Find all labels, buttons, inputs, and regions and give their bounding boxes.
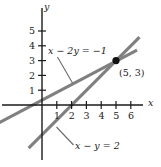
x-tick-label-4: 4 bbox=[98, 111, 104, 121]
y-tick-label-4: 4 bbox=[29, 41, 35, 51]
graph-figure: y x 1 2 3 4 5 1 2 3 4 5 6 x − 2y = −1 x … bbox=[0, 0, 161, 167]
y-axis-label: y bbox=[44, 2, 49, 12]
x-tick-label-2: 2 bbox=[69, 111, 75, 121]
x-tick-label-6: 6 bbox=[128, 111, 134, 121]
leader-line-lower-equation bbox=[57, 127, 74, 145]
intersection-dot bbox=[112, 57, 119, 64]
equation-label-lower: x − y = 2 bbox=[75, 141, 120, 151]
x-tick-label-1: 1 bbox=[54, 111, 60, 121]
equation-label-upper: x − 2y = −1 bbox=[48, 46, 107, 56]
leader-line-upper-equation bbox=[58, 57, 73, 83]
x-tick-label-5: 5 bbox=[113, 111, 119, 121]
y-tick-label-3: 3 bbox=[29, 56, 35, 66]
intersection-point-label: (5, 3) bbox=[119, 68, 145, 78]
y-tick-label-1: 1 bbox=[29, 86, 35, 96]
x-axis-label: x bbox=[148, 98, 153, 108]
y-tick-label-2: 2 bbox=[29, 71, 35, 81]
x-tick-label-3: 3 bbox=[84, 111, 90, 121]
y-tick-label-5: 5 bbox=[29, 26, 35, 36]
